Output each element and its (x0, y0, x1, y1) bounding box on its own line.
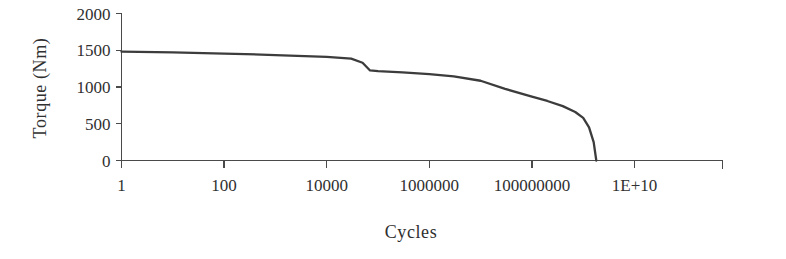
y-axis-title: Torque (Nm) (30, 38, 51, 139)
y-axis-tick-label: 1500 (77, 41, 111, 60)
x-axis-tick-label: 100000000 (494, 176, 571, 195)
y-axis-tick-labels: 0500100015002000 (77, 5, 111, 171)
x-axis-tick-label: 100 (211, 176, 237, 195)
x-axis-ticks (122, 161, 635, 168)
y-axis-tick-label: 0 (102, 152, 111, 171)
chart-figure: 0500100015002000 11001000010000001000000… (0, 0, 786, 259)
x-axis-title: Cycles (385, 222, 438, 242)
x-axis-tick-label: 1E+10 (612, 176, 657, 195)
y-axis-tick-label: 500 (85, 115, 111, 134)
x-axis-tick-label: 10000 (305, 176, 348, 195)
y-axis-tick-label: 2000 (77, 5, 111, 24)
torque-vs-cycles-chart: 0500100015002000 11001000010000001000000… (0, 0, 786, 259)
x-axis-tick-label: 1 (117, 176, 126, 195)
y-axis-tick-label: 1000 (77, 78, 111, 97)
y-axis-ticks (116, 14, 122, 161)
x-axis-tick-label: 1000000 (400, 176, 460, 195)
x-axis-tick-labels: 11001000010000001000000001E+10 (117, 176, 657, 195)
data-series-torque-capacity (122, 52, 597, 161)
